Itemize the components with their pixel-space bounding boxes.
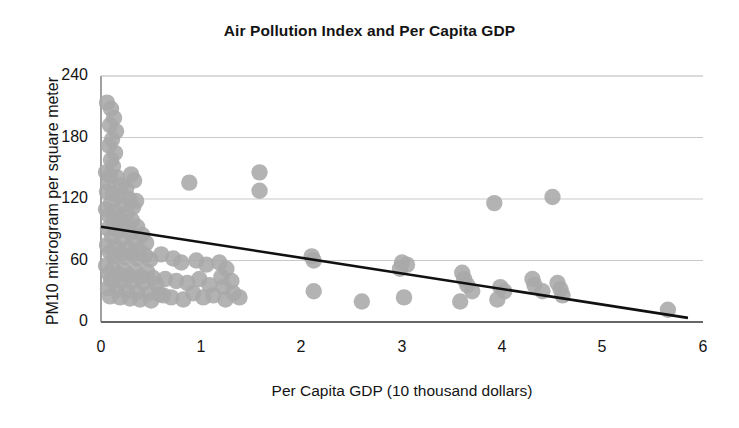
- scatter-plot-canvas: [0, 0, 739, 428]
- chart-figure: Air Pollution Index and Per Capita GDP P…: [0, 0, 739, 428]
- scatter-point: [489, 291, 505, 307]
- scatter-point: [173, 254, 189, 270]
- scatter-point: [306, 283, 322, 299]
- scatter-point: [452, 293, 468, 309]
- scatter-point: [181, 174, 197, 190]
- scatter-point: [486, 195, 502, 211]
- data-points-group: [98, 94, 676, 317]
- scatter-point: [251, 164, 267, 180]
- scatter-point: [354, 293, 370, 309]
- scatter-point: [396, 289, 412, 305]
- scatter-point: [231, 289, 247, 305]
- scatter-point: [544, 189, 560, 205]
- gridlines: [101, 76, 703, 261]
- scatter-point: [554, 287, 570, 303]
- scatter-point: [251, 183, 267, 199]
